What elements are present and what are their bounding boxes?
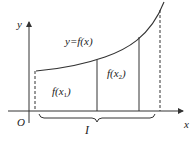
f-x1-main: f(x: [52, 85, 64, 98]
f-x2-main: f(x: [107, 67, 119, 80]
f-x1-close: ): [66, 85, 71, 98]
function-diagram: y O x I y=f(x) f(x1) f(x2): [0, 0, 195, 145]
f-x2-close: ): [121, 67, 126, 80]
origin-label: O: [17, 116, 25, 128]
f-x2-label: f(x2): [107, 67, 126, 81]
curve-label: y=f(x): [64, 35, 93, 48]
x-axis-label: x: [183, 118, 189, 130]
interval-label: I: [84, 123, 90, 137]
function-curve: [36, 2, 164, 71]
f-x1-label: f(x1): [52, 85, 71, 99]
interval-brace: [39, 114, 155, 122]
y-axis-label: y: [16, 18, 22, 30]
